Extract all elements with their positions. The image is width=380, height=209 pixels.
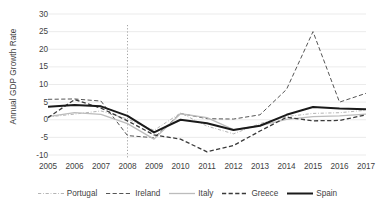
legend-swatch-greece-icon [222,190,248,197]
legend-swatch-spain-icon [287,190,313,197]
legend-item-ireland[interactable]: Ireland [106,189,160,198]
legend-item-italy[interactable]: Italy [169,189,213,198]
legend-item-portugal[interactable]: Portugal [38,189,98,198]
legend-label: Greece [251,189,278,198]
legend-swatch-portugal-icon [38,190,64,197]
legend-label: Ireland [135,189,160,198]
legend-item-greece[interactable]: Greece [222,189,278,198]
chart-legend: PortugalIrelandItalyGreeceSpain [0,184,375,202]
legend-swatch-ireland-icon [106,190,132,197]
legend-swatch-italy-icon [169,190,195,197]
legend-label: Spain [316,189,337,198]
legend-label: Italy [198,189,213,198]
legend-label: Portugal [67,189,98,198]
legend-item-spain[interactable]: Spain [287,189,337,198]
x-axis-tick: 2017 [346,162,380,171]
